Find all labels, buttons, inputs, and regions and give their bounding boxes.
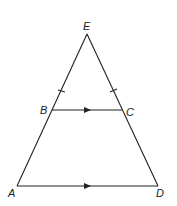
vertex-label-D: D — [156, 187, 164, 199]
triangle-diagram: E B C A D — [0, 0, 177, 206]
vertex-label-B: B — [40, 104, 47, 116]
vertex-label-E: E — [83, 20, 91, 32]
vertex-label-C: C — [126, 106, 134, 118]
parallel-arrow-icon-BC — [84, 107, 91, 113]
parallel-arrow-icon-AD — [84, 183, 91, 189]
vertex-label-A: A — [7, 187, 15, 199]
